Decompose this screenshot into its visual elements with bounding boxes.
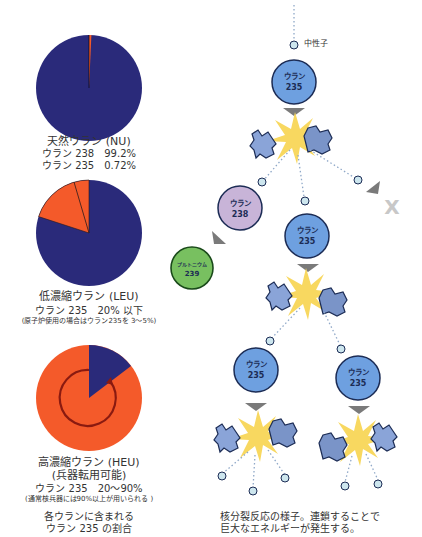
pie-title: 低濃縮ウラン (LEU): [9, 290, 169, 303]
arrow-down-icon: [297, 264, 319, 272]
svg-text:ウラン: ウラン: [246, 360, 268, 369]
svg-text:ウラン: ウラン: [230, 199, 252, 208]
atom-u235-3: ウラン 235: [234, 348, 278, 392]
svg-text:ウラン: ウラン: [284, 72, 306, 81]
pie-value-line: ウラン 235 20% 以下: [9, 305, 169, 317]
pie-value-line: ウラン 235 20〜90%: [9, 483, 169, 495]
neutron-icon: [290, 41, 298, 49]
pie-title: 天然ウラン (NU): [29, 135, 149, 148]
fission-event-4: [319, 414, 397, 466]
pie-note: (通常核兵器には90%以上が用いられる ): [9, 495, 169, 504]
svg-text:235: 235: [286, 83, 303, 92]
neutron-icon: [249, 487, 257, 495]
lost-mark: X: [384, 195, 400, 219]
left-caption: 各ウランに含まれる ウラン 235 の割合: [9, 511, 169, 535]
svg-text:239: 239: [185, 270, 200, 278]
pie-value-line: ウラン 238 99.2%: [29, 148, 149, 160]
pie-value-line: ウラン 235 0.72%: [29, 160, 149, 172]
caption-line: 核分裂反応の様子。連鎖することで: [220, 511, 380, 523]
neutron-icon: [337, 345, 345, 353]
pie-natural-uranium: [36, 35, 142, 141]
caption-line: 各ウランに含まれる: [9, 511, 169, 523]
neutron-icon: [258, 178, 266, 186]
fission-event-1: [250, 112, 332, 164]
atom-u235-2: ウラン 235: [285, 214, 329, 258]
svg-text:238: 238: [232, 210, 249, 219]
atom-u235-4: ウラン 235: [336, 356, 380, 400]
arrow-icon: [366, 181, 380, 194]
caption-line: 巨大なエネルギーが発生する。: [220, 523, 380, 535]
pie-low-enriched-uranium: [36, 180, 142, 286]
fission-event-3: [214, 410, 297, 462]
neutron-label: 中性子: [304, 38, 328, 50]
pie-title: 高濃縮ウラン (HEU): [9, 456, 169, 469]
pie-note: (原子炉使用の場合はウラン235を 3〜5%): [9, 317, 169, 326]
atom-u235-1: ウラン 235: [272, 60, 316, 104]
fission-event-2: [266, 268, 347, 320]
pie-high-enriched-legend: 高濃縮ウラン (HEU) (兵器転用可能) ウラン 235 20〜90% (通常…: [9, 456, 169, 504]
neutron-icon: [218, 472, 226, 480]
pie-title-sub: (兵器転用可能): [9, 469, 169, 482]
chain-reaction: ウラン 235 X ウラン 238 プルトニウム 239: [171, 5, 400, 495]
atom-u238: ウラン 238: [218, 186, 262, 230]
neutron-icon: [374, 480, 382, 488]
svg-text:ウラン: ウラン: [297, 226, 319, 235]
neutron-icon: [341, 482, 349, 490]
arrow-icon: [212, 231, 226, 244]
arrow-down-icon: [283, 108, 305, 116]
neutron-icon: [281, 474, 289, 482]
pie-natural-uranium-legend: 天然ウラン (NU) ウラン 238 99.2% ウラン 235 0.72%: [29, 135, 149, 172]
svg-text:ウラン: ウラン: [348, 368, 370, 377]
svg-text:235: 235: [299, 237, 316, 246]
arrow-down-icon: [245, 403, 267, 411]
caption-line: ウラン 235 の割合: [9, 523, 169, 535]
pie-low-enriched-legend: 低濃縮ウラン (LEU) ウラン 235 20% 以下 (原子炉使用の場合はウラ…: [9, 290, 169, 326]
right-caption: 核分裂反応の様子。連鎖することで 巨大なエネルギーが発生する。: [220, 511, 380, 535]
neutron-icon: [301, 197, 309, 205]
svg-text:プルトニウム: プルトニウム: [177, 261, 207, 268]
svg-text:235: 235: [350, 379, 367, 388]
neutron-icon: [266, 337, 274, 345]
svg-text:235: 235: [248, 371, 265, 380]
neutron-icon: [354, 176, 362, 184]
arrow-down-icon: [348, 406, 370, 414]
pie-high-enriched-uranium: [36, 345, 142, 451]
atom-pu239: プルトニウム 239: [171, 247, 213, 289]
